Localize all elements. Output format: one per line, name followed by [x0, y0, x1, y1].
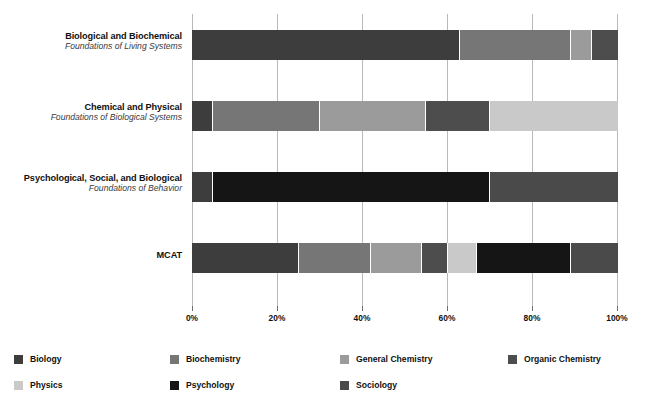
- stacked-bar: [192, 172, 618, 202]
- category-label-secondary: Foundations of Biological Systems: [0, 113, 182, 123]
- bar-segment-sociology[interactable]: [490, 172, 618, 202]
- bar-segment-organic-chemistry[interactable]: [422, 243, 448, 273]
- x-axis-tick: [277, 306, 278, 311]
- bar-segment-general-chemistry[interactable]: [371, 243, 422, 273]
- legend-label: Biochemistry: [186, 354, 240, 364]
- legend-label: General Chemistry: [356, 354, 432, 364]
- bar-segment-biology[interactable]: [192, 243, 299, 273]
- legend-label: Physics: [30, 380, 63, 390]
- stacked-bar: [192, 101, 618, 131]
- legend-item-biology[interactable]: Biology: [14, 352, 62, 366]
- legend-item-organic-chemistry[interactable]: Organic Chemistry: [508, 352, 601, 366]
- x-axis-tick: [617, 306, 618, 311]
- category-label-primary: Biological and Biochemical: [0, 31, 182, 42]
- x-axis-tick-label: 40%: [340, 313, 384, 323]
- legend-swatch-icon: [170, 381, 179, 390]
- x-axis-tick-label: 100%: [595, 313, 639, 323]
- x-axis-tick: [362, 306, 363, 311]
- x-axis-tick-label: 60%: [425, 313, 469, 323]
- bar-segment-physics[interactable]: [448, 243, 478, 273]
- category-label: Biological and BiochemicalFoundations of…: [0, 31, 182, 52]
- category-label-primary: Chemical and Physical: [0, 102, 182, 113]
- category-label: MCAT: [0, 250, 182, 261]
- stacked-bar-chart: Biological and BiochemicalFoundations of…: [0, 0, 646, 415]
- legend-item-biochemistry[interactable]: Biochemistry: [170, 352, 240, 366]
- category-label-primary: MCAT: [0, 250, 182, 261]
- category-label-primary: Psychological, Social, and Biological: [0, 173, 182, 184]
- x-axis-tick: [192, 306, 193, 311]
- bar-row: [192, 30, 618, 60]
- legend-swatch-icon: [508, 355, 517, 364]
- legend-label: Psychology: [186, 380, 234, 390]
- legend-swatch-icon: [170, 355, 179, 364]
- legend-label: Sociology: [356, 380, 397, 390]
- bar-row: [192, 172, 618, 202]
- bar-segment-general-chemistry[interactable]: [320, 101, 427, 131]
- legend-item-psychology[interactable]: Psychology: [170, 378, 234, 392]
- bar-row: [192, 101, 618, 131]
- bar-segment-physics[interactable]: [490, 101, 618, 131]
- plot-area: [192, 14, 618, 306]
- stacked-bar: [192, 243, 618, 273]
- bar-segment-organic-chemistry[interactable]: [592, 30, 618, 60]
- legend-item-general-chemistry[interactable]: General Chemistry: [340, 352, 432, 366]
- bar-segment-organic-chemistry[interactable]: [426, 101, 490, 131]
- category-label: Chemical and PhysicalFoundations of Biol…: [0, 102, 182, 123]
- bar-segment-psychology[interactable]: [213, 172, 490, 202]
- bar-segment-biochemistry[interactable]: [299, 243, 371, 273]
- bar-segment-biology[interactable]: [192, 101, 213, 131]
- bar-segment-biochemistry[interactable]: [460, 30, 571, 60]
- x-axis-tick-label: 0%: [170, 313, 214, 323]
- bar-segment-biology[interactable]: [192, 30, 460, 60]
- legend-swatch-icon: [14, 355, 23, 364]
- legend-label: Biology: [30, 354, 62, 364]
- legend-item-sociology[interactable]: Sociology: [340, 378, 397, 392]
- legend-swatch-icon: [340, 381, 349, 390]
- x-axis-tick-label: 80%: [510, 313, 554, 323]
- legend-swatch-icon: [14, 381, 23, 390]
- bar-segment-sociology[interactable]: [571, 243, 618, 273]
- bar-segment-general-chemistry[interactable]: [571, 30, 592, 60]
- x-axis-tick: [447, 306, 448, 311]
- bar-segment-psychology[interactable]: [477, 243, 571, 273]
- bar-row: [192, 243, 618, 273]
- bar-segment-biology[interactable]: [192, 172, 213, 202]
- chart-legend: BiologyBiochemistryGeneral ChemistryOrga…: [14, 352, 634, 404]
- category-label: Psychological, Social, and BiologicalFou…: [0, 173, 182, 194]
- legend-swatch-icon: [340, 355, 349, 364]
- legend-item-physics[interactable]: Physics: [14, 378, 63, 392]
- category-label-secondary: Foundations of Living Systems: [0, 42, 182, 52]
- stacked-bar: [192, 30, 618, 60]
- legend-label: Organic Chemistry: [524, 354, 601, 364]
- x-axis-tick: [532, 306, 533, 311]
- category-label-secondary: Foundations of Behavior: [0, 184, 182, 194]
- bar-segment-biochemistry[interactable]: [213, 101, 320, 131]
- x-axis-tick-label: 20%: [255, 313, 299, 323]
